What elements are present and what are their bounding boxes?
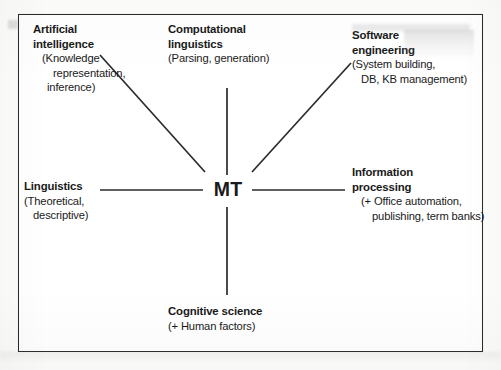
- node-artificial-intelligence: Artificial intelligence (Knowledge repre…: [33, 22, 125, 94]
- node-detail-line: inference): [33, 80, 125, 94]
- node-linguistics: Linguistics (Theoretical, descriptive): [24, 179, 88, 222]
- node-computational-linguistics: Computational linguistics (Parsing, gene…: [168, 22, 269, 66]
- node-heading: Linguistics: [24, 179, 88, 194]
- node-heading-cont: linguistics: [168, 37, 269, 52]
- node-heading-cont: intelligence: [33, 37, 125, 52]
- node-heading: Information: [352, 165, 484, 180]
- node-software-engineering: Software engineering (System building, D…: [352, 28, 467, 86]
- scan-artifact-speck: [8, 20, 18, 29]
- node-detail-line: (Parsing, generation): [168, 51, 269, 65]
- node-detail-line: (+ Human factors): [168, 319, 262, 333]
- node-detail-line: DB, KB management): [352, 72, 467, 86]
- scan-artifact-edge-shadow: [0, 352, 501, 364]
- node-detail-line: (Theoretical,: [24, 194, 88, 208]
- node-cognitive-science: Cognitive science (+ Human factors): [168, 304, 262, 333]
- node-heading: Software: [352, 28, 467, 43]
- node-detail-line: (System building,: [352, 57, 467, 71]
- node-heading: Cognitive science: [168, 304, 262, 319]
- node-heading: Computational: [168, 22, 269, 37]
- hub-label-mt: MT: [205, 178, 251, 201]
- node-heading-cont: processing: [352, 180, 484, 195]
- node-detail-line: (+ Office automation,: [352, 194, 484, 208]
- node-detail-line: publishing, term banks): [352, 209, 484, 223]
- node-detail-line: descriptive): [24, 208, 88, 222]
- diagram-page: Artificial intelligence (Knowledge repre…: [0, 0, 501, 370]
- node-heading-cont: engineering: [352, 43, 467, 58]
- node-detail-line: (Knowledge: [33, 51, 125, 65]
- node-detail-line: representation,: [33, 66, 125, 80]
- node-heading: Artificial: [33, 22, 125, 37]
- node-information-processing: Information processing (+ Office automat…: [352, 165, 484, 223]
